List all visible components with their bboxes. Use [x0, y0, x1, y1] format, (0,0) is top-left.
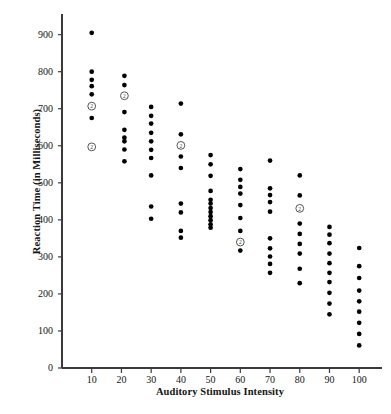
data-point [238, 191, 243, 196]
y-axis-tick-label: 300 [21, 252, 53, 262]
data-point [208, 189, 213, 194]
y-axis-tick-label: 400 [21, 215, 53, 225]
data-point [238, 167, 243, 172]
data-point [149, 105, 154, 110]
overlap-count-label: 2 [239, 239, 242, 245]
data-point [327, 241, 332, 246]
data-point-overlap: 2 [296, 204, 304, 212]
data-point [297, 281, 302, 286]
data-point [208, 225, 213, 230]
overlap-count-label: 2 [298, 206, 301, 212]
y-axis-tick-label: 900 [21, 30, 53, 40]
data-point [297, 266, 302, 271]
data-point [179, 132, 184, 137]
data-point [327, 280, 332, 285]
data-point [268, 186, 273, 191]
data-point [208, 173, 213, 178]
overlap-count-label: 2 [90, 144, 93, 150]
data-point [208, 201, 213, 206]
data-point-overlap: 2 [88, 102, 96, 110]
y-axis-tick-label: 100 [21, 326, 53, 336]
data-point [238, 185, 243, 190]
data-point [179, 201, 184, 206]
data-point [268, 246, 273, 251]
data-point [297, 242, 302, 247]
y-axis-tick-label: 600 [21, 141, 53, 151]
data-point [268, 270, 273, 275]
data-point [122, 139, 127, 144]
data-point [327, 251, 332, 256]
data-point [122, 128, 127, 133]
data-point [89, 30, 94, 35]
data-point [122, 83, 127, 88]
data-point [179, 154, 184, 159]
data-point [268, 254, 273, 259]
data-point-overlap: 2 [121, 92, 129, 100]
overlap-count-label: 2 [123, 93, 126, 99]
data-point-overlap: 2 [88, 143, 96, 151]
data-point [238, 178, 243, 183]
data-point [327, 261, 332, 266]
data-point [179, 166, 184, 171]
data-point [297, 193, 302, 198]
data-point [89, 78, 94, 83]
data-point [149, 173, 154, 178]
x-axis-tick-label: 100 [342, 375, 376, 385]
data-point [208, 162, 213, 167]
overlap-count-label: 2 [90, 103, 93, 109]
data-point [149, 130, 154, 135]
data-point [122, 159, 127, 164]
data-point [327, 301, 332, 306]
data-point [357, 299, 362, 304]
data-point [327, 232, 332, 237]
data-point [208, 214, 213, 219]
data-point [297, 173, 302, 178]
data-point [357, 309, 362, 314]
data-point [357, 343, 362, 348]
data-point [122, 73, 127, 78]
data-point [238, 229, 243, 234]
data-point [357, 264, 362, 269]
x-axis-title: Auditory Stimulus Intensity [60, 386, 380, 397]
data-point [268, 209, 273, 214]
data-point [149, 216, 154, 221]
plot-canvas: 222222 [0, 0, 391, 414]
y-axis-tick-label: 200 [21, 289, 53, 299]
data-point [327, 270, 332, 275]
data-point [327, 312, 332, 317]
data-point [268, 200, 273, 205]
data-point [149, 121, 154, 126]
data-point-overlap: 2 [236, 238, 244, 246]
data-point [238, 216, 243, 221]
data-point [357, 332, 362, 337]
data-point [149, 113, 154, 118]
data-point [297, 221, 302, 226]
data-point [179, 235, 184, 240]
data-point [327, 290, 332, 295]
y-axis-tick-label: 0 [21, 363, 53, 373]
data-point [179, 229, 184, 234]
data-point [89, 92, 94, 97]
y-axis-tick-label: 800 [21, 67, 53, 77]
data-point [89, 69, 94, 74]
overlap-count-label: 2 [179, 143, 182, 149]
data-point [327, 225, 332, 230]
data-point [357, 276, 362, 281]
data-point [149, 156, 154, 161]
data-point-overlap: 2 [177, 142, 185, 150]
data-point [268, 158, 273, 163]
data-point [179, 101, 184, 106]
data-point [179, 210, 184, 215]
data-point [208, 206, 213, 211]
data-point [357, 320, 362, 325]
data-point [357, 288, 362, 293]
y-axis-tick-label: 700 [21, 104, 53, 114]
data-point [208, 210, 213, 215]
data-point [268, 236, 273, 241]
data-point [208, 218, 213, 223]
data-point [238, 203, 243, 208]
data-point [149, 139, 154, 144]
data-point [357, 246, 362, 251]
data-point [238, 248, 243, 253]
data-point [268, 193, 273, 198]
